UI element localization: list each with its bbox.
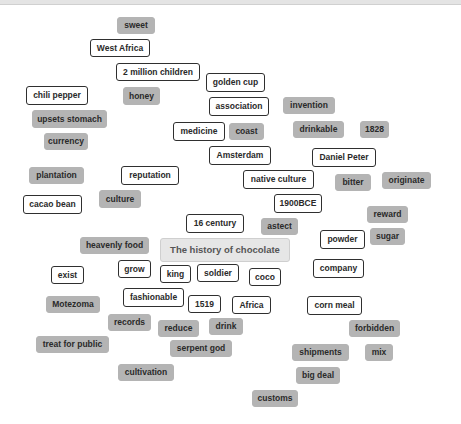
word-chip-outlined[interactable]: grow bbox=[118, 260, 151, 278]
word-chip-outlined[interactable]: coco bbox=[249, 268, 281, 286]
word-chip-filled[interactable]: drinkable bbox=[293, 121, 344, 138]
word-chip-outlined[interactable]: Amsterdam bbox=[209, 146, 271, 165]
word-chip-outlined[interactable]: company bbox=[313, 259, 364, 278]
word-chip-filled[interactable]: coast bbox=[229, 123, 264, 140]
word-chip-outlined[interactable]: chili pepper bbox=[26, 86, 88, 105]
word-chip-filled[interactable]: sweet bbox=[117, 17, 155, 34]
word-chip-filled[interactable]: reward bbox=[367, 206, 408, 223]
word-chip-outlined[interactable]: association bbox=[209, 97, 269, 116]
word-chip-filled[interactable]: cultivation bbox=[118, 364, 174, 381]
word-chip-outlined[interactable]: native culture bbox=[243, 170, 314, 189]
word-chip-outlined[interactable]: golden cup bbox=[206, 73, 265, 92]
word-chip-filled[interactable]: forbidden bbox=[349, 320, 400, 337]
word-chip-outlined[interactable]: West Africa bbox=[90, 39, 150, 57]
word-chip-outlined[interactable]: Africa bbox=[232, 296, 271, 314]
word-chip-outlined[interactable]: cacao bean bbox=[23, 195, 82, 214]
word-chip-filled[interactable]: currency bbox=[44, 133, 88, 150]
word-chip-filled[interactable]: serpent god bbox=[170, 340, 232, 357]
word-chip-outlined[interactable]: king bbox=[160, 265, 191, 283]
word-chip-filled[interactable]: big deal bbox=[296, 367, 340, 384]
word-chip-filled[interactable]: plantation bbox=[29, 167, 84, 184]
word-chip-filled[interactable]: shipments bbox=[292, 344, 349, 361]
word-chip-filled[interactable]: originate bbox=[382, 172, 431, 189]
word-chip-outlined[interactable]: soldier bbox=[197, 264, 239, 282]
word-chip-filled[interactable]: astect bbox=[261, 218, 298, 235]
word-chip-outlined[interactable]: 1519 bbox=[188, 295, 221, 313]
word-chip-filled[interactable]: reduce bbox=[158, 320, 199, 337]
word-chip-outlined[interactable]: corn meal bbox=[307, 296, 362, 315]
word-chip-filled[interactable]: treat for public bbox=[36, 336, 109, 353]
word-chip-outlined[interactable]: 16 century bbox=[186, 214, 244, 233]
word-chip-outlined[interactable]: fashionable bbox=[123, 288, 184, 307]
word-chip-outlined[interactable]: powder bbox=[320, 230, 365, 249]
word-chip-filled[interactable]: 1828 bbox=[360, 121, 389, 138]
word-chip-filled[interactable]: culture bbox=[99, 190, 141, 208]
word-chip-outlined[interactable]: reputation bbox=[121, 166, 179, 185]
word-chip-outlined[interactable]: 2 million children bbox=[116, 63, 200, 81]
word-chip-filled[interactable]: honey bbox=[123, 87, 160, 105]
word-chip-filled[interactable]: customs bbox=[252, 390, 298, 407]
word-chip-filled[interactable]: records bbox=[108, 314, 151, 331]
word-chip-outlined[interactable]: exist bbox=[51, 266, 84, 284]
word-chip-filled[interactable]: upsets stomach bbox=[32, 110, 107, 128]
word-chip-outlined[interactable]: 1900BCE bbox=[274, 194, 322, 213]
word-chip-filled[interactable]: sugar bbox=[370, 228, 405, 245]
word-chip-filled[interactable]: bitter bbox=[335, 174, 371, 191]
word-chip-filled[interactable]: mix bbox=[365, 344, 393, 361]
word-chip-filled[interactable]: drink bbox=[209, 318, 243, 335]
word-chip-outlined[interactable]: medicine bbox=[173, 122, 225, 141]
word-chip-outlined[interactable]: Daniel Peter bbox=[312, 148, 376, 167]
word-chip-filled[interactable]: Motezoma bbox=[46, 296, 100, 313]
word-chip-filled[interactable]: heavenly food bbox=[80, 237, 149, 254]
central-topic-node[interactable]: The history of chocolate bbox=[160, 238, 290, 262]
mind-map-canvas: The history of chocolate sweetWest Afric… bbox=[0, 0, 461, 424]
word-chip-filled[interactable]: invention bbox=[283, 97, 335, 114]
